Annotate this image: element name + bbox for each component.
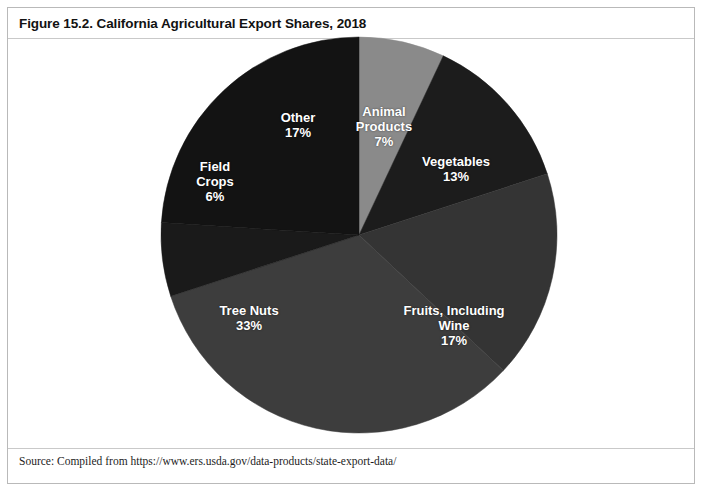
pie-chart-svg: [8, 32, 694, 448]
slice-value-tree-nuts: 33%: [184, 318, 314, 333]
slice-label-fruits-including-wine: Fruits, Including Wine 17%: [374, 303, 534, 348]
slice-label-vegetables: Vegetables 13%: [396, 154, 516, 184]
slice-name-other: Other: [240, 110, 356, 125]
source-note: Source: Compiled from https://www.ers.us…: [19, 455, 396, 467]
figure-title: Figure 15.2. California Agricultural Exp…: [19, 16, 366, 31]
slice-name-tree-nuts: Tree Nuts: [184, 303, 314, 318]
slice-label-field-crops: Field Crops 6%: [170, 159, 260, 204]
slice-label-tree-nuts: Tree Nuts 33%: [184, 303, 314, 333]
slice-value-field-crops: 6%: [170, 189, 260, 204]
pie-chart: Animal Products 7% Vegetables 13% Fruits…: [8, 32, 694, 448]
slice-value-other: 17%: [240, 125, 356, 140]
slice-value-vegetables: 13%: [396, 169, 516, 184]
pie-slice-group: [161, 37, 557, 433]
slice-name-vegetables: Vegetables: [396, 154, 516, 169]
source-divider: [8, 448, 694, 449]
slice-value-fruits-including-wine: 17%: [374, 333, 534, 348]
slice-label-other: Other 17%: [240, 110, 356, 140]
slice-name-fruits-including-wine: Fruits, Including Wine: [374, 303, 534, 333]
slice-name-field-crops: Field Crops: [170, 159, 260, 189]
figure-container: Figure 15.2. California Agricultural Exp…: [7, 7, 695, 484]
